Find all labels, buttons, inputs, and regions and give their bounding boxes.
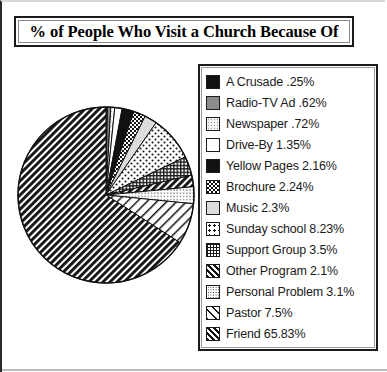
legend-label-radio-tv-ad: Radio-TV Ad .62% [226, 96, 326, 110]
pie-slices [18, 107, 194, 283]
legend-label-music: Music 2.3% [226, 201, 289, 215]
legend-swatch-support-group [206, 243, 220, 257]
legend-swatch-music [206, 201, 220, 215]
legend-label-yellow-pages: Yellow Pages 2.16% [226, 159, 337, 173]
legend-swatch-yellow-pages [206, 159, 220, 173]
legend-swatch-friend [206, 327, 220, 341]
legend-swatch-radio-tv-ad [206, 96, 220, 110]
legend-label-drive-by: Drive-By 1.35% [226, 138, 311, 152]
legend-item-pastor[interactable]: Pastor 7.5% [206, 302, 376, 323]
pie-chart-svg [10, 90, 200, 290]
legend-swatch-a-crusade [206, 75, 220, 89]
legend-swatch-newspaper [206, 117, 220, 131]
legend-label-personal-problem: Personal Problem 3.1% [226, 285, 354, 299]
legend: A Crusade .25%Radio-TV Ad .62%Newspaper … [198, 64, 378, 351]
legend-item-music[interactable]: Music 2.3% [206, 197, 376, 218]
legend-label-newspaper: Newspaper .72% [226, 117, 319, 131]
legend-item-newspaper[interactable]: Newspaper .72% [206, 113, 376, 134]
frame-bottom-rule [2, 369, 387, 371]
legend-item-personal-problem[interactable]: Personal Problem 3.1% [206, 281, 376, 302]
legend-label-other-program: Other Program 2.1% [226, 264, 338, 278]
legend-label-support-group: Support Group 3.5% [226, 243, 337, 257]
legend-swatch-personal-problem [206, 285, 220, 299]
legend-item-friend[interactable]: Friend 65.83% [206, 323, 376, 344]
legend-items: A Crusade .25%Radio-TV Ad .62%Newspaper … [206, 71, 376, 344]
legend-swatch-drive-by [206, 138, 220, 152]
legend-label-pastor: Pastor 7.5% [226, 306, 292, 320]
legend-item-radio-tv-ad[interactable]: Radio-TV Ad .62% [206, 92, 376, 113]
legend-item-a-crusade[interactable]: A Crusade .25% [206, 71, 376, 92]
pie-chart [10, 90, 200, 290]
legend-item-other-program[interactable]: Other Program 2.1% [206, 260, 376, 281]
page-title: % of People Who Visit a Church Because O… [30, 22, 339, 42]
legend-label-friend: Friend 65.83% [226, 327, 305, 341]
legend-label-a-crusade: A Crusade .25% [226, 75, 314, 89]
legend-item-brochure[interactable]: Brochure 2.24% [206, 176, 376, 197]
legend-swatch-brochure [206, 180, 220, 194]
legend-item-yellow-pages[interactable]: Yellow Pages 2.16% [206, 155, 376, 176]
legend-item-support-group[interactable]: Support Group 3.5% [206, 239, 376, 260]
legend-label-sunday-school: Sunday school 8.23% [226, 222, 344, 236]
legend-swatch-other-program [206, 264, 220, 278]
title-box: % of People Who Visit a Church Because O… [14, 16, 354, 47]
legend-item-sunday-school[interactable]: Sunday school 8.23% [206, 218, 376, 239]
legend-swatch-sunday-school [206, 222, 220, 236]
legend-swatch-pastor [206, 306, 220, 320]
legend-label-brochure: Brochure 2.24% [226, 180, 314, 194]
legend-item-drive-by[interactable]: Drive-By 1.35% [206, 134, 376, 155]
